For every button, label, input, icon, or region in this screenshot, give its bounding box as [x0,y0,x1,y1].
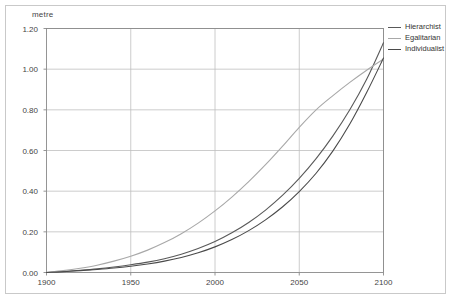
legend-swatch-icon [388,38,401,39]
legend-item-hierarchist[interactable]: Hierarchist [388,22,450,32]
legend-label: Egalitarian [405,33,440,43]
x-axis-tick-label: 1950 [111,278,151,287]
x-axis-tick-labels: 19001950200020502100 [0,0,452,300]
x-axis-tick-label: 2000 [195,278,235,287]
x-axis-tick-label: 1900 [27,278,67,287]
x-axis-tick-label: 2100 [364,278,404,287]
chart-legend: HierarchistEgalitarianIndividualist [388,22,450,55]
chart-container: metre 0.000.200.400.600.801.001.20 19001… [0,0,452,300]
legend-item-egalitarian[interactable]: Egalitarian [388,33,450,43]
legend-swatch-icon [388,49,401,50]
x-axis-tick-label: 2050 [279,278,319,287]
legend-item-individualist[interactable]: Individualist [388,44,450,54]
legend-swatch-icon [388,27,401,28]
legend-label: Hierarchist [405,22,441,32]
legend-label: Individualist [405,44,444,54]
